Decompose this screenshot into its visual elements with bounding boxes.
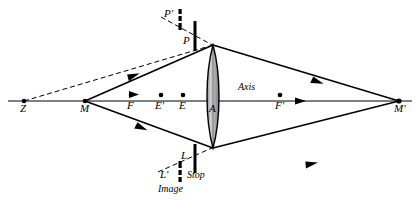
stop-label-p: P (183, 35, 190, 46)
ray-arrow-lower-right (304, 159, 318, 169)
axis-arrow-right (295, 98, 306, 105)
virtual-ray-z-to-lens-top (24, 45, 213, 101)
point-label-f: F (127, 100, 134, 111)
point-dot-f-prime (278, 93, 283, 98)
point-label-m: M (80, 103, 89, 114)
point-dot-e (181, 93, 186, 98)
stop-label-l: L (181, 150, 187, 161)
ray-lens-top-to-mprime (213, 45, 399, 101)
image-bar-l-prime (179, 161, 182, 182)
point-label-z: Z (20, 103, 26, 114)
ray-m-to-lens-bottom (85, 101, 213, 148)
point-dot-e-prime (159, 93, 164, 98)
point-label-e: E (179, 100, 186, 111)
point-dot-f (129, 93, 134, 98)
point-label-f-prime: F' (275, 100, 284, 111)
image-label-p-prime: P' (164, 8, 173, 19)
optics-ray-diagram: Z M F E' E A F' M' Axis P P' L L' Stop I… (0, 0, 420, 206)
point-label-m-prime: M' (394, 103, 406, 114)
stop-bar-p (194, 21, 197, 51)
axis-label: Axis (238, 82, 255, 92)
stop-text-label: Stop (187, 170, 205, 180)
ray-lens-bottom-to-mprime (213, 101, 399, 148)
image-text-label: Image (158, 184, 183, 194)
ray-m-to-lens-top (85, 45, 213, 101)
point-label-a: A (209, 103, 216, 114)
image-label-l-prime: L' (160, 169, 168, 180)
point-label-e-prime: E' (155, 100, 164, 111)
image-bar-p-prime (179, 9, 182, 30)
